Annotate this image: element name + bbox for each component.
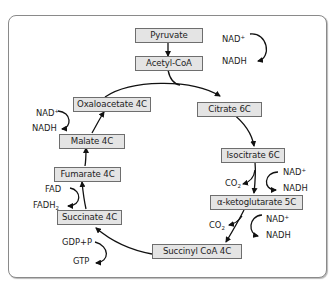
label-nad-pyruvate: NAD+	[222, 32, 245, 44]
node-succinate: Succinate 4C	[57, 210, 122, 225]
node-succinyl-coa: Succinyl CoA 4C	[152, 244, 242, 259]
label-gdp-p: GDP+P	[62, 237, 92, 247]
label-nadh-ketoglutarate: NADH	[266, 230, 291, 240]
label-nadh-isocitrate: NADH	[283, 183, 308, 193]
node-oxaloacetate: Oxaloacetate 4C	[73, 97, 151, 112]
label-nadh-malate: NADH	[32, 123, 57, 133]
label-gtp: GTP	[73, 256, 89, 266]
label-nad-malate: NAD+	[36, 106, 59, 118]
label-fadh2: FADH2	[33, 200, 59, 213]
label-fad: FAD	[45, 184, 61, 194]
node-malate: Malate 4C	[59, 134, 125, 149]
label-co2-isocitrate: CO2	[225, 178, 241, 191]
node-alpha-ketoglutarate: α-ketoglutarate 5C	[210, 195, 303, 210]
node-acetyl-coa: Acetyl-CoA	[135, 56, 203, 71]
node-pyruvate: Pyruvate	[135, 28, 203, 43]
label-nad-isocitrate: NAD+	[283, 165, 306, 177]
node-isocitrate: Isocitrate 6C	[221, 148, 285, 163]
label-nadh-pyruvate: NADH	[222, 56, 247, 66]
node-fumarate: Fumarate 4C	[54, 167, 121, 182]
label-nad-ketoglutarate: NAD+	[266, 212, 289, 224]
node-citrate: Citrate 6C	[197, 102, 262, 117]
label-co2-ketoglutarate: CO2	[209, 220, 225, 233]
